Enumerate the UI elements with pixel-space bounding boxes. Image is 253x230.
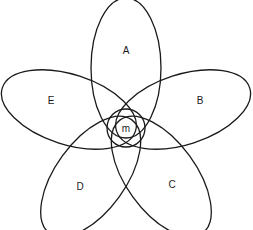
set-ellipse-c [92,99,231,230]
petal-diagram: ABCDEm m [0,0,253,230]
set-label-e: E [48,95,55,106]
set-label-c: C [168,179,175,190]
set-label-d: D [76,181,83,192]
set-label-a: A [123,45,130,56]
core-label: m [122,123,130,134]
set-ellipse-d [21,99,160,230]
diagram-canvas: ABCDEm [0,0,253,230]
set-label-b: B [197,95,204,106]
